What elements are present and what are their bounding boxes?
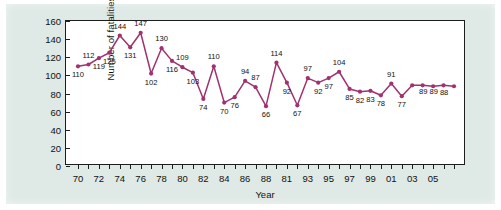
data-point-label: 112 xyxy=(82,52,94,60)
data-point-marker xyxy=(118,33,122,37)
data-point-marker xyxy=(253,85,257,89)
data-point-label: 94 xyxy=(241,68,249,76)
data-point-marker xyxy=(337,70,341,74)
data-point-marker xyxy=(410,83,414,87)
data-point-label: 102 xyxy=(145,79,158,87)
x-axis-title: Year xyxy=(66,189,464,200)
y-axis-tick-label: 60 xyxy=(32,107,66,117)
data-point-label: 92 xyxy=(283,88,291,96)
data-point-label: 87 xyxy=(251,74,259,82)
data-point-label: 70 xyxy=(220,108,228,116)
plot-area: Number of fatalities 0204060801001201401… xyxy=(65,20,465,165)
data-point-label: 77 xyxy=(398,101,406,109)
data-point-marker xyxy=(295,103,299,107)
data-point-marker xyxy=(149,71,153,75)
fatalities-series xyxy=(66,21,466,166)
data-point-marker xyxy=(327,76,331,80)
data-point-label: 78 xyxy=(377,101,385,109)
data-point-marker xyxy=(201,97,205,101)
data-point-label: 97 xyxy=(324,83,332,91)
data-point-marker xyxy=(243,79,247,83)
data-point-label: 76 xyxy=(230,102,238,110)
data-point-label: 114 xyxy=(270,50,282,58)
data-point-label: 83 xyxy=(366,96,374,104)
data-point-label: 110 xyxy=(72,72,84,80)
data-point-marker xyxy=(170,59,174,63)
x-axis-tick-label: 05 xyxy=(420,173,446,184)
data-point-marker xyxy=(97,56,101,60)
data-point-label: 103 xyxy=(187,78,200,86)
data-point-label: 92 xyxy=(314,88,322,96)
data-point-marker xyxy=(212,64,216,68)
data-point-marker xyxy=(316,81,320,85)
data-point-marker xyxy=(389,81,393,85)
data-point-label: 109 xyxy=(176,54,189,62)
data-point-marker xyxy=(452,84,456,88)
y-axis-tick-label: 120 xyxy=(32,52,66,62)
data-point-label: 125 xyxy=(103,58,116,66)
data-point-label: 91 xyxy=(387,71,395,79)
figure-panel: Number of fatalities 0204060801001201401… xyxy=(6,4,495,204)
data-point-label: 66 xyxy=(262,111,270,119)
data-point-label: 89 xyxy=(419,89,427,97)
data-point-marker xyxy=(358,90,362,94)
y-axis-tick-label: 140 xyxy=(32,34,66,44)
data-point-marker xyxy=(379,93,383,97)
y-axis-tick-mark xyxy=(66,166,70,167)
data-point-label: 67 xyxy=(293,110,301,118)
y-axis-tick-label: 80 xyxy=(32,89,66,99)
data-point-label: 116 xyxy=(166,66,178,74)
data-point-marker xyxy=(107,51,111,55)
data-point-label: 147 xyxy=(134,20,147,28)
series-line xyxy=(78,33,454,106)
data-point-marker xyxy=(128,45,132,49)
data-point-label: 97 xyxy=(304,65,312,73)
data-point-label: 144 xyxy=(113,23,126,31)
data-point-marker xyxy=(368,89,372,93)
data-point-label: 110 xyxy=(208,54,220,62)
data-point-label: 74 xyxy=(199,104,207,112)
data-point-marker xyxy=(76,64,80,68)
data-point-marker xyxy=(222,100,226,104)
data-point-label: 130 xyxy=(155,35,168,43)
data-point-marker xyxy=(191,71,195,75)
y-axis-tick-label: 0 xyxy=(32,161,66,171)
data-point-marker xyxy=(139,31,143,35)
data-point-marker xyxy=(285,81,289,85)
y-axis-tick-label: 20 xyxy=(32,143,66,153)
data-point-marker xyxy=(264,104,268,108)
data-point-marker xyxy=(274,61,278,65)
data-point-label: 131 xyxy=(124,52,137,60)
data-point-label: 89 xyxy=(429,89,437,97)
y-axis-tick-label: 100 xyxy=(32,70,66,80)
data-point-label: 85 xyxy=(345,94,353,102)
data-point-label: 104 xyxy=(333,59,346,67)
data-point-label: 82 xyxy=(356,97,364,105)
data-point-label: 88 xyxy=(440,89,448,97)
data-point-marker xyxy=(347,87,351,91)
data-point-marker xyxy=(180,65,184,69)
data-point-marker xyxy=(306,76,310,80)
data-point-marker xyxy=(400,94,404,98)
y-axis-tick-label: 40 xyxy=(32,125,66,135)
data-point-marker xyxy=(86,62,90,66)
data-point-marker xyxy=(233,95,237,99)
y-axis-tick-label: 160 xyxy=(32,16,66,26)
data-point-marker xyxy=(159,46,163,50)
data-point-marker xyxy=(441,83,445,87)
